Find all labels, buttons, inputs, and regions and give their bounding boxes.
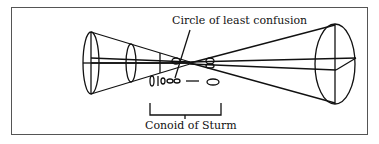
circle-of-least-confusion-label: Circle of least confusion: [172, 14, 307, 27]
conoid-of-sturm-label: Conoid of Sturm: [145, 119, 237, 132]
